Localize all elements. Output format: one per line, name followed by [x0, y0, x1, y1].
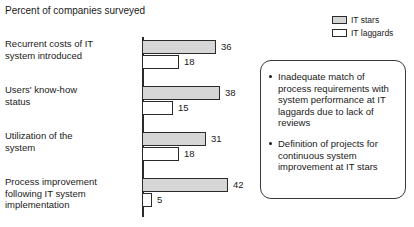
bar-laggards-users-know-how [142, 101, 173, 115]
bar-value-laggards-utilization: 18 [184, 147, 195, 161]
category-label-line: Process improvement [5, 176, 137, 188]
legend-swatch-icon-it-laggards [332, 29, 347, 37]
bar-value-stars-utilization: 31 [211, 132, 222, 146]
legend-item-it-laggards: IT laggards [332, 27, 412, 38]
bar-stars-utilization [142, 132, 206, 146]
bar-group-utilization: Utilization of the system 31 18 [0, 130, 256, 166]
bar-stars-process-improvement [142, 178, 228, 192]
bar-laggards-process-improvement [142, 193, 152, 207]
insights-callout-box: Inadequate match of process requirements… [260, 60, 406, 199]
bar-stars-recurrent-costs [142, 40, 216, 54]
category-label-recurrent-costs: Recurrent costs of IT system introduced [5, 38, 137, 61]
chart-legend: IT stars IT laggards [332, 14, 412, 40]
bar-group-recurrent-costs: Recurrent costs of IT system introduced … [0, 38, 256, 74]
bar-value-laggards-process-improvement: 5 [157, 193, 162, 207]
insight-bullet-2-text: Definition of projects for continuous sy… [278, 138, 378, 172]
bullet-dot-icon [269, 142, 272, 145]
bar-value-stars-process-improvement: 42 [233, 178, 244, 192]
category-label-line: Recurrent costs of IT [5, 38, 137, 50]
chart-title: Percent of companies surveyed [5, 5, 145, 17]
plot-area: Recurrent costs of IT system introduced … [0, 34, 256, 220]
bar-group-users-know-how: Users' know-how status 38 15 [0, 84, 256, 120]
bullet-dot-icon [269, 75, 272, 78]
legend-swatch-icon-it-stars [332, 16, 347, 24]
insights-list: Inadequate match of process requirements… [269, 71, 399, 173]
category-label-line: status [5, 96, 137, 108]
bar-value-laggards-users-know-how: 15 [178, 101, 189, 115]
bar-value-stars-users-know-how: 38 [225, 86, 236, 100]
category-label-line: implementation [5, 199, 137, 211]
category-label-users-know-how: Users' know-how status [5, 84, 137, 107]
legend-label-it-stars: IT stars [351, 15, 379, 25]
bar-value-laggards-recurrent-costs: 18 [184, 55, 195, 69]
legend-label-it-laggards: IT laggards [351, 28, 393, 38]
category-label-line: following IT system [5, 188, 137, 200]
bar-laggards-recurrent-costs [142, 55, 179, 69]
bar-stars-users-know-how [142, 86, 220, 100]
bar-group-process-improvement: Process improvement following IT system … [0, 176, 256, 216]
category-label-line: Utilization of the [5, 130, 137, 142]
category-label-line: system introduced [5, 50, 137, 62]
category-label-utilization: Utilization of the system [5, 130, 137, 153]
category-label-line: Users' know-how [5, 84, 137, 96]
bar-value-stars-recurrent-costs: 36 [221, 40, 232, 54]
category-label-process-improvement: Process improvement following IT system … [5, 176, 137, 211]
insight-bullet-1-text: Inadequate match of process requirements… [278, 71, 389, 128]
legend-item-it-stars: IT stars [332, 14, 412, 25]
bar-laggards-utilization [142, 147, 179, 161]
insight-bullet-1: Inadequate match of process requirements… [269, 71, 399, 129]
chart-figure: Percent of companies surveyed IT stars I… [0, 0, 414, 227]
category-label-line: system [5, 142, 137, 154]
insight-bullet-2: Definition of projects for continuous sy… [269, 138, 399, 173]
